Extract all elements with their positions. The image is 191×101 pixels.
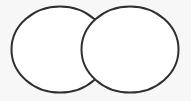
venn-diagram-figure [0,0,191,101]
venn-diagram-canvas [0,0,191,101]
venn-circle-right [82,7,179,93]
